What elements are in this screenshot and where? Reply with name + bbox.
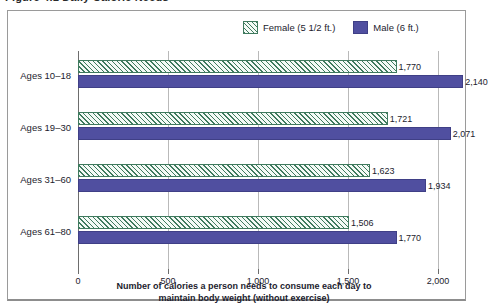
bar-value-male-ages-10-18: 2,140 xyxy=(465,77,488,87)
category-label-ages-61-80: Ages 61–80 xyxy=(20,226,71,237)
legend-label-female: Female (5 1/2 ft.) xyxy=(263,22,335,33)
bar-female-ages-10-18[interactable]: 1,770 xyxy=(78,60,397,73)
tick-1000 xyxy=(258,269,259,274)
figure-title: Figure 4.1 Daily Calorie Needs xyxy=(5,0,169,3)
bar-value-female-ages-61-80: 1,506 xyxy=(351,218,374,228)
bar-value-female-ages-10-18: 1,770 xyxy=(399,62,422,72)
filled-purple-square-icon xyxy=(353,21,368,34)
legend-item-female: Female (5 1/2 ft.) xyxy=(243,21,335,34)
hatched-green-square-icon xyxy=(243,21,258,34)
bar-female-ages-31-60[interactable]: 1,623 xyxy=(78,164,370,177)
bar-male-ages-61-80[interactable]: 1,770 xyxy=(78,231,397,244)
bar-value-female-ages-31-60: 1,623 xyxy=(372,166,395,176)
bar-value-male-ages-61-80: 1,770 xyxy=(399,233,422,243)
bar-value-male-ages-19-30: 2,071 xyxy=(453,129,476,139)
chart-legend: Female (5 1/2 ft.) Male (6 ft.) xyxy=(243,19,419,35)
cut-off-title-strip: Figure 4.1 Daily Calorie Needs xyxy=(0,0,473,8)
tick-2000 xyxy=(438,269,439,274)
table-row: Ages 31–60 1,623 1,934 xyxy=(78,163,438,200)
bar-female-ages-19-30[interactable]: 1,721 xyxy=(78,112,388,125)
table-row: Ages 10–18 1,770 2,140 xyxy=(78,59,438,96)
legend-label-male: Male (6 ft.) xyxy=(373,22,418,33)
tick-0 xyxy=(78,269,79,274)
x-axis-caption-line2: maintain body weight (without exercise) xyxy=(44,293,444,305)
x-axis-caption: Number of calories a person needs to con… xyxy=(44,281,444,304)
bar-male-ages-10-18[interactable]: 2,140 xyxy=(78,75,463,88)
table-row: Ages 19–30 1,721 2,071 xyxy=(78,111,438,148)
table-row: Ages 61–80 1,506 1,770 xyxy=(78,215,438,252)
tick-1500 xyxy=(348,269,349,274)
legend-item-male: Male (6 ft.) xyxy=(353,21,418,34)
bar-male-ages-31-60[interactable]: 1,934 xyxy=(78,179,426,192)
bar-male-ages-19-30[interactable]: 2,071 xyxy=(78,127,451,140)
x-axis-caption-line1: Number of calories a person needs to con… xyxy=(44,281,444,293)
bar-value-female-ages-19-30: 1,721 xyxy=(390,114,413,124)
category-label-ages-19-30: Ages 19–30 xyxy=(20,122,71,133)
tick-500 xyxy=(168,269,169,274)
category-label-ages-31-60: Ages 31–60 xyxy=(20,174,71,185)
bar-value-male-ages-31-60: 1,934 xyxy=(428,181,451,191)
category-label-ages-10-18: Ages 10–18 xyxy=(20,70,71,81)
chart-frame: Female (5 1/2 ft.) Male (6 ft.) 0 500 xyxy=(7,10,466,301)
plot-area: 0 500 1,000 1,500 2,000 Ages 10–18 1,770… xyxy=(78,51,438,269)
bar-female-ages-61-80[interactable]: 1,506 xyxy=(78,216,349,229)
